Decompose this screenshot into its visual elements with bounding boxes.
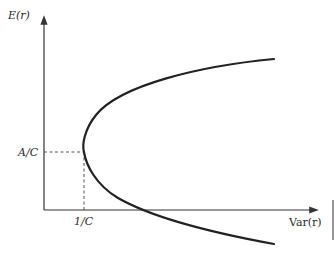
x-tick-label: 1/C — [74, 216, 93, 227]
frontier-curve — [83, 59, 274, 244]
y-axis-label: E(r) — [8, 10, 30, 21]
x-axis-label: Var(r) — [289, 217, 322, 228]
y-tick-label: A/C — [18, 147, 38, 158]
frontier-diagram — [0, 0, 334, 261]
